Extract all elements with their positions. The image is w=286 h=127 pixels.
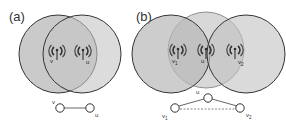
diagram-canvas: (a) v u v u (b) — [0, 0, 286, 127]
panel-a: (a) v u v u — [9, 9, 121, 118]
graph-node-v2 — [236, 104, 244, 112]
graph-node-u — [86, 104, 94, 112]
graph-node-v1-label: v1 — [162, 113, 168, 121]
coverage-circle-u — [43, 15, 121, 93]
graph-node-v1 — [171, 104, 179, 112]
graph-node-v-label: v — [52, 99, 55, 105]
graph-node-u-label: u — [95, 112, 98, 118]
graph-node-u-label: u — [196, 89, 199, 95]
edge-v1-u — [179, 99, 204, 106]
antenna-label-u: u — [86, 59, 89, 65]
graph-node-v2-label: v2 — [246, 112, 252, 120]
coverage-circle-v2 — [207, 15, 285, 93]
graph-node-u — [204, 94, 212, 102]
panel-a-label: (a) — [9, 9, 25, 24]
antenna-label-v: v — [50, 58, 53, 64]
panel-b: (b) v1 u — [132, 9, 285, 121]
graph-node-v — [56, 104, 64, 112]
antenna-label-u: u — [201, 58, 204, 64]
edge-u-v2 — [212, 99, 237, 106]
